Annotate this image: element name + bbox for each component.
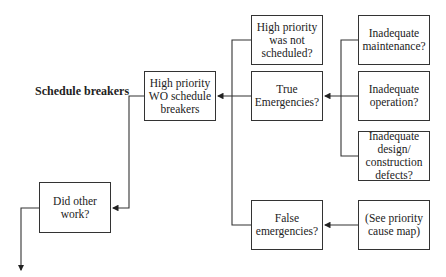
node-high-priority-wo-schedule-breakers: High priority WO schedule breakers [144,71,216,121]
node-false-emergencies: False emergencies? [251,200,323,250]
diagram-title: Schedule breakers [35,84,129,99]
node-see-priority-cause-map: (See priority cause map) [358,200,430,250]
node-true-emergencies: True Emergencies? [251,71,323,121]
node-inadequate-maintenance: Inadequate maintenance? [358,15,430,65]
node-high-priority-not-scheduled: High priority was not scheduled? [251,15,323,65]
node-did-other-work: Did other work? [39,182,111,233]
node-inadequate-operation: Inadequate operation? [358,71,430,121]
node-inadequate-design: Inadequate design/ construction defects? [358,131,430,181]
